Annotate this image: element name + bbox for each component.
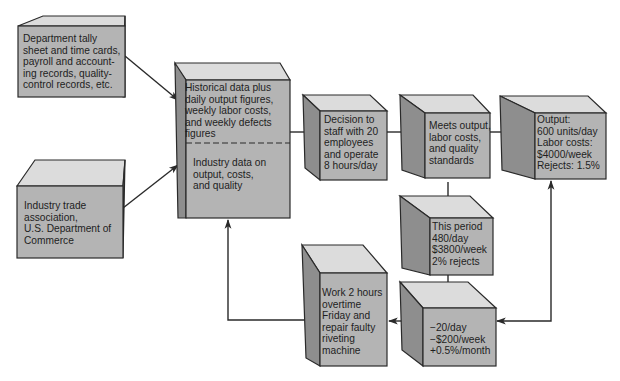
box-front bbox=[320, 273, 387, 366]
node-industry-trade bbox=[17, 160, 125, 258]
box-front bbox=[18, 26, 125, 97]
box-top bbox=[17, 160, 125, 186]
node-central-data bbox=[175, 63, 290, 218]
box-front bbox=[430, 218, 493, 275]
box-side bbox=[175, 63, 186, 218]
node-corrective-action bbox=[302, 245, 387, 366]
node-deviation bbox=[400, 282, 496, 366]
box-front bbox=[320, 111, 387, 180]
box-front bbox=[17, 186, 123, 258]
edge-trade-to-industry bbox=[123, 165, 178, 208]
box-front bbox=[186, 80, 290, 218]
node-decision bbox=[303, 95, 387, 180]
box-front bbox=[423, 308, 496, 366]
edge-dept-to-historical bbox=[125, 56, 178, 100]
node-dept-records bbox=[18, 16, 125, 97]
box-top bbox=[18, 16, 125, 26]
node-meets-standards bbox=[400, 95, 490, 178]
box-front bbox=[425, 113, 490, 178]
edge-work-to-industry bbox=[228, 220, 307, 320]
edge-output-deviation bbox=[497, 181, 551, 321]
node-output-standards bbox=[500, 96, 606, 179]
box-top bbox=[175, 63, 290, 80]
node-this-period bbox=[400, 196, 493, 275]
control-process-diagram bbox=[0, 0, 620, 381]
box-front bbox=[535, 113, 606, 179]
